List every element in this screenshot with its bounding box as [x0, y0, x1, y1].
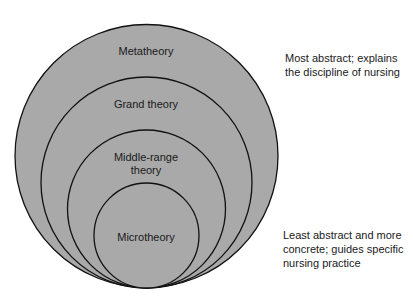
annotation-top-line1: Most abstract; explains — [285, 51, 400, 65]
label-metatheory: Metatheory — [118, 45, 174, 57]
annotation-bottom-line3: nursing practice — [283, 256, 403, 270]
label-microtheory: Microtheory — [117, 231, 175, 243]
label-middle-range-line2: theory — [131, 164, 162, 176]
annotation-bottom-line1: Least abstract and more — [283, 228, 403, 242]
annotation-bottom-line2: concrete; guides specific — [283, 242, 403, 256]
label-grand-theory: Grand theory — [114, 98, 179, 110]
annotation-least-abstract: Least abstract and more concrete; guides… — [283, 228, 403, 270]
annotation-top-line2: the discipline of nursing — [285, 65, 400, 79]
label-middle-range-line1: Middle-range — [114, 151, 178, 163]
annotation-most-abstract: Most abstract; explains the discipline o… — [285, 51, 400, 79]
